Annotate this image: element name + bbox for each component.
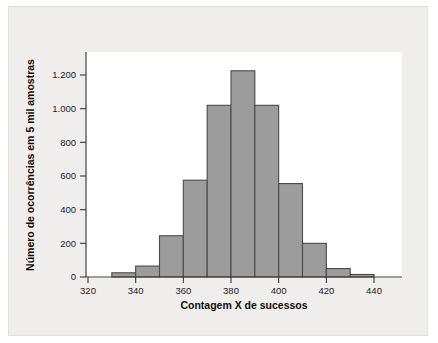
histogram-bar: [231, 71, 255, 277]
figure-container: 02004006008001.0001.200 3203403603804004…: [0, 0, 438, 343]
x-tick-label: 380: [223, 285, 239, 296]
x-axis-ticks: 320340360380400420440: [80, 277, 382, 296]
x-tick-label: 440: [366, 285, 382, 296]
y-axis-ticks: 02004006008001.0001.200: [52, 69, 86, 282]
x-tick-label: 340: [128, 285, 144, 296]
x-tick-label: 400: [271, 285, 287, 296]
histogram-bar: [279, 184, 303, 277]
x-tick-label: 420: [318, 285, 334, 296]
histogram-bar: [183, 180, 207, 277]
histogram-bar: [160, 236, 184, 277]
histogram-bar: [255, 105, 279, 277]
y-axis-title: Número de ocorrências em 5 mil amostras: [24, 59, 36, 271]
x-axis-title: Contagem X de sucessos: [180, 299, 307, 311]
histogram-bar: [303, 243, 327, 277]
x-tick-label: 360: [175, 285, 191, 296]
bars-group: [112, 71, 374, 277]
y-tick-label: 600: [60, 170, 76, 181]
y-tick-label: 400: [60, 204, 76, 215]
y-tick-label: 1.000: [52, 103, 76, 114]
histogram-bar: [326, 269, 350, 277]
x-tick-label: 320: [80, 285, 96, 296]
histogram-bar: [207, 105, 231, 277]
histogram-bar: [136, 266, 160, 277]
y-tick-label: 200: [60, 238, 76, 249]
y-tick-label: 0: [71, 271, 76, 282]
histogram-chart: 02004006008001.0001.200 3203403603804004…: [0, 0, 438, 343]
y-tick-label: 800: [60, 137, 76, 148]
histogram-bar: [112, 273, 136, 277]
y-tick-label: 1.200: [52, 69, 76, 80]
